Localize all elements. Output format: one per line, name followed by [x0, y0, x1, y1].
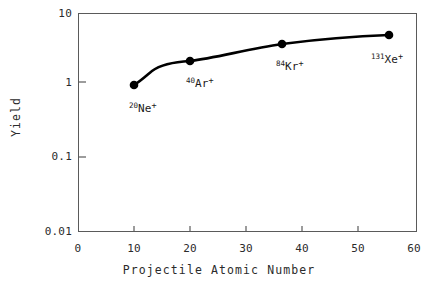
krypton-mass-number: 84: [276, 59, 285, 68]
ytick-label-1: 1: [40, 77, 72, 88]
krypton-charge-sign: +: [298, 58, 303, 68]
plot-area-frame: [78, 13, 417, 232]
xenon-mass-number: 131: [371, 52, 385, 61]
y-axis-title: Yield: [9, 87, 23, 147]
xenon-element-symbol: Xe: [385, 53, 398, 66]
neon-element-symbol: Ne: [138, 102, 151, 115]
neon-charge-sign: +: [151, 100, 156, 110]
neon-point-label: 20Ne+: [129, 99, 157, 115]
ytick-label-10: 10: [40, 8, 72, 19]
x-axis-title: Projectile Atomic Number: [0, 263, 438, 277]
xtick-label-50: 50: [342, 243, 374, 254]
xenon-charge-sign: +: [398, 51, 403, 61]
argon-mass-number: 40: [186, 76, 195, 85]
xtick-label-20: 20: [174, 243, 206, 254]
argon-element-symbol: Ar: [195, 77, 208, 90]
xenon-point-label: 131Xe+: [371, 50, 403, 66]
xtick-label-10: 10: [118, 243, 150, 254]
xtick-label-40: 40: [286, 243, 318, 254]
krypton-point-label: 84Kr+: [276, 57, 304, 73]
ytick-label-0.01: 0.01: [30, 226, 72, 237]
argon-charge-sign: +: [208, 75, 213, 85]
xtick-label-30: 30: [230, 243, 262, 254]
krypton-element-symbol: Kr: [285, 60, 298, 73]
xtick-label-0: 0: [62, 243, 94, 254]
xtick-label-60: 60: [398, 243, 430, 254]
ytick-label-0.1: 0.1: [36, 151, 72, 162]
argon-point-label: 40Ar+: [186, 74, 214, 90]
yield-vs-projectile-atomic-number-chart: 10 1 0.1 0.01 0 10 20 30 40 50 60 Projec…: [0, 0, 438, 293]
neon-mass-number: 20: [129, 101, 138, 110]
